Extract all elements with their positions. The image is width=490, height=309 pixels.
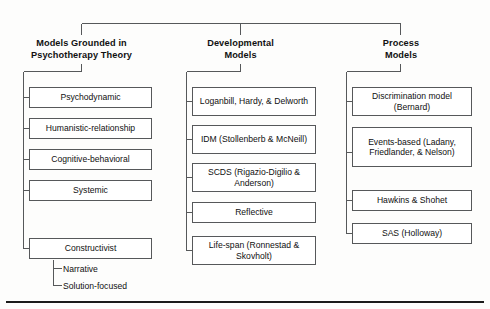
node-cognitive-behavioral[interactable]: Cognitive-behavioral xyxy=(29,149,152,170)
node-label: Psychodynamic xyxy=(33,92,148,102)
column-header-line2: Models xyxy=(182,50,299,62)
node-idm-stollenberb-mcneill[interactable]: IDM (Stollenberb & McNeill) xyxy=(192,125,316,154)
node-systemic[interactable]: Systemic xyxy=(29,180,152,201)
node-label: IDM (Stollenberb & McNeill) xyxy=(196,134,312,144)
node-scds-rigazio-digilio-anderson[interactable]: SCDS (Rigazio-Digilio & Anderson) xyxy=(192,163,316,192)
node-label: Hawkins & Shohet xyxy=(356,195,468,205)
node-label: Systemic xyxy=(33,185,148,195)
node-label: Constructivist xyxy=(33,243,148,253)
node-label: Humanistic-relationship xyxy=(33,123,148,133)
node-loganbill-hardy-delworth[interactable]: Loganbill, Hardy, & Delworth xyxy=(192,87,316,116)
subnode-narrative[interactable]: Narrative xyxy=(63,264,98,274)
node-label: Life-span (Ronnestad & Skovholt) xyxy=(196,240,312,261)
bottom-divider xyxy=(6,301,484,303)
node-events-based-ladany-friedlander-nelson[interactable]: Events-based (Ladany, Friedlander, & Nel… xyxy=(352,127,472,167)
node-hawkins-shohet[interactable]: Hawkins & Shohet xyxy=(352,190,472,211)
column-header-line2: Models xyxy=(345,50,457,62)
node-label: Events-based (Ladany, Friedlander, & Nel… xyxy=(356,137,468,158)
node-label: Loganbill, Hardy, & Delworth xyxy=(196,96,312,106)
node-label: Reflective xyxy=(196,207,312,217)
node-label: Cognitive-behavioral xyxy=(33,154,148,164)
node-label: Discrimination model (Bernard) xyxy=(356,91,468,112)
node-psychodynamic[interactable]: Psychodynamic xyxy=(29,87,152,108)
node-constructivist[interactable]: Constructivist xyxy=(29,238,152,259)
node-life-span-ronnestad-skovholt[interactable]: Life-span (Ronnestad & Skovholt) xyxy=(192,236,316,265)
node-label: SAS (Holloway) xyxy=(356,228,468,238)
column-header-psychotherapy-theory: Models Grounded in Psychotherapy Theory xyxy=(8,38,155,61)
column-header-line1: Developmental xyxy=(182,38,299,50)
column-header-line1: Models Grounded in xyxy=(8,38,155,50)
column-header-line2: Psychotherapy Theory xyxy=(8,50,155,62)
node-reflective[interactable]: Reflective xyxy=(192,202,316,223)
column-header-process-models: Process Models xyxy=(345,38,457,61)
column-header-line1: Process xyxy=(345,38,457,50)
node-label: SCDS (Rigazio-Digilio & Anderson) xyxy=(196,167,312,188)
node-discrimination-model-bernard[interactable]: Discrimination model (Bernard) xyxy=(352,87,472,116)
subnode-solution-focused[interactable]: Solution-focused xyxy=(63,281,127,291)
supervision-models-diagram: Models Grounded in Psychotherapy Theory … xyxy=(0,0,490,309)
column-header-developmental-models: Developmental Models xyxy=(182,38,299,61)
node-humanistic-relationship[interactable]: Humanistic-relationship xyxy=(29,118,152,139)
node-sas-holloway[interactable]: SAS (Holloway) xyxy=(352,223,472,244)
